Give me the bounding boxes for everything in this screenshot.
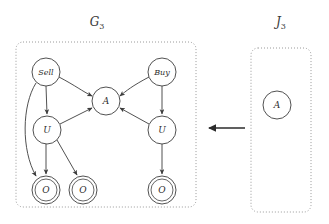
node-buy-label: Buy [153,68,170,77]
edge-sell-to-u-left [46,86,47,114]
node-o1-label: O [42,185,50,195]
panel-label-G3-sub: 3 [99,22,104,31]
edge-buy-to-a [120,77,149,96]
edge-u-left-to-o2 [57,140,77,175]
node-u-left-label: U [43,125,51,135]
node-sell-label: Sell [38,68,54,77]
panel-label-G3-base: G [90,15,100,29]
panel-J3: J3 A [251,15,311,212]
node-u-left[interactable]: U [33,116,61,144]
node-o1[interactable]: O [32,176,60,204]
group-box-J3 [251,48,311,212]
panel-label-G3: G3 [90,15,105,31]
node-a-j3-label: A [273,100,281,110]
node-u-right[interactable]: U [148,116,176,144]
figure-root: G3 Sell Bu [0,0,329,224]
node-u-right-label: U [158,125,166,135]
edge-sell-to-a [59,77,92,96]
panel-G3: G3 Sell Bu [16,15,196,207]
node-o3-label: O [158,185,166,195]
node-o2[interactable]: O [69,176,97,204]
node-sell[interactable]: Sell [32,58,60,86]
panel-label-J3-sub: 3 [281,22,286,31]
node-o3[interactable]: O [148,176,176,204]
node-a-j3[interactable]: A [263,91,291,119]
edge-u-right-to-a [120,108,149,124]
diagram-canvas: G3 Sell Bu [0,0,329,224]
node-o2-label: O [79,185,87,195]
node-a-g3[interactable]: A [92,87,120,115]
edge-u-left-to-a [60,108,92,124]
node-a-g3-label: A [102,96,110,106]
node-buy[interactable]: Buy [148,58,176,86]
panel-label-J3: J3 [273,15,286,31]
